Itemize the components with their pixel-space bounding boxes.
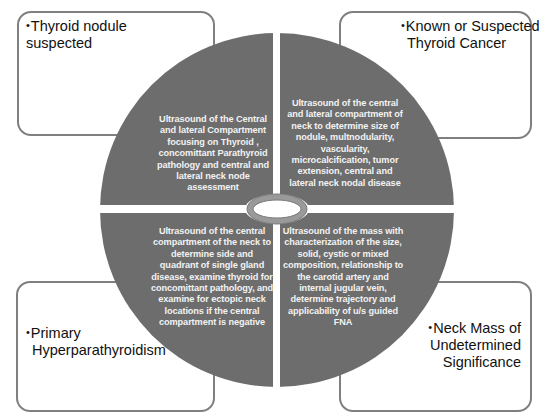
- text-line: concomittant pathology, and: [148, 283, 276, 294]
- text-line: locations if the central: [148, 306, 276, 317]
- text-line: applicability of u/s guided: [279, 306, 407, 317]
- text-line: Ultrasound of the Central: [150, 114, 276, 125]
- text-line: compartment of the neck to: [148, 237, 276, 248]
- text-line: Ultrasound of the central: [281, 98, 409, 109]
- text-line: compartment is negative: [148, 317, 276, 328]
- label-line: Hyperparathyroidism: [26, 342, 166, 358]
- text-line: disease, examine thyroid for: [148, 272, 276, 283]
- text-line: vascularity,: [281, 144, 409, 155]
- text-line: focusing on Thyroid ,: [150, 137, 276, 148]
- text-line: pathology and central and: [150, 160, 276, 171]
- text-line: examine for ectopic neck: [148, 294, 276, 305]
- label-line: Undetermined: [430, 337, 521, 353]
- label-line: Significance: [443, 354, 521, 370]
- bullet: •: [428, 321, 432, 333]
- text-line: internal jugular vein,: [279, 283, 407, 294]
- label-line: Known or Suspected: [406, 18, 540, 34]
- text-line: Ultrasound of the mass with: [279, 226, 407, 237]
- text-line: assessment: [150, 182, 276, 193]
- label-known-suspected-thyroid-cancer: •Known or Suspected Thyroid Cancer: [401, 17, 540, 52]
- quadrant-text-top-right: Ultrasound of the central and lateral co…: [281, 98, 409, 189]
- text-line: solid, cystic or mixed: [279, 249, 407, 260]
- text-line: the carotid artery and: [279, 272, 407, 283]
- text-line: and lateral Compartment: [150, 125, 276, 136]
- text-line: nodule, multnodularity,: [281, 132, 409, 143]
- quadrant-text-bottom-right: Ultrasound of the mass with characteriza…: [279, 226, 407, 329]
- label-line: Neck Mass of: [433, 320, 521, 336]
- text-line: quadrant of single gland: [148, 260, 276, 271]
- label-line: Thyroid Cancer: [401, 35, 506, 51]
- quadrant-text-bottom-left: Ultrasound of the central compartment of…: [148, 226, 276, 329]
- quadrant-text-top-left: Ultrasound of the Central and lateral Co…: [150, 114, 276, 194]
- text-line: lateral neck node: [150, 171, 276, 182]
- label-neck-mass-undetermined: •Neck Mass of Undetermined Significance: [428, 319, 521, 371]
- text-line: and lateral compartment of: [281, 109, 409, 120]
- text-line: determine trajectory and: [279, 294, 407, 305]
- text-line: determine side and: [148, 249, 276, 260]
- bullet: •: [26, 326, 30, 338]
- text-line: neck to determine size of: [281, 121, 409, 132]
- text-line: concomittant Parathyroid: [150, 148, 276, 159]
- label-line: Thyroid nodule: [31, 18, 127, 34]
- label-thyroid-nodule-suspected: •Thyroid nodule suspected: [26, 17, 127, 52]
- label-primary-hyperparathyroidism: •Primary Hyperparathyroidism: [26, 324, 166, 359]
- bullet: •: [401, 19, 405, 31]
- text-line: microcalcification, tumor: [281, 155, 409, 166]
- text-line: composition, relationship to: [279, 260, 407, 271]
- label-line: Primary: [31, 325, 81, 341]
- ring-icon: [245, 194, 309, 224]
- text-line: lateral neck nodal disease: [281, 178, 409, 189]
- text-line: Ultrasound of the central: [148, 226, 276, 237]
- label-line: suspected: [26, 35, 92, 51]
- text-line: extension, central and: [281, 166, 409, 177]
- text-line: characterization of the size,: [279, 237, 407, 248]
- bullet: •: [26, 19, 30, 31]
- text-line: FNA: [279, 317, 407, 328]
